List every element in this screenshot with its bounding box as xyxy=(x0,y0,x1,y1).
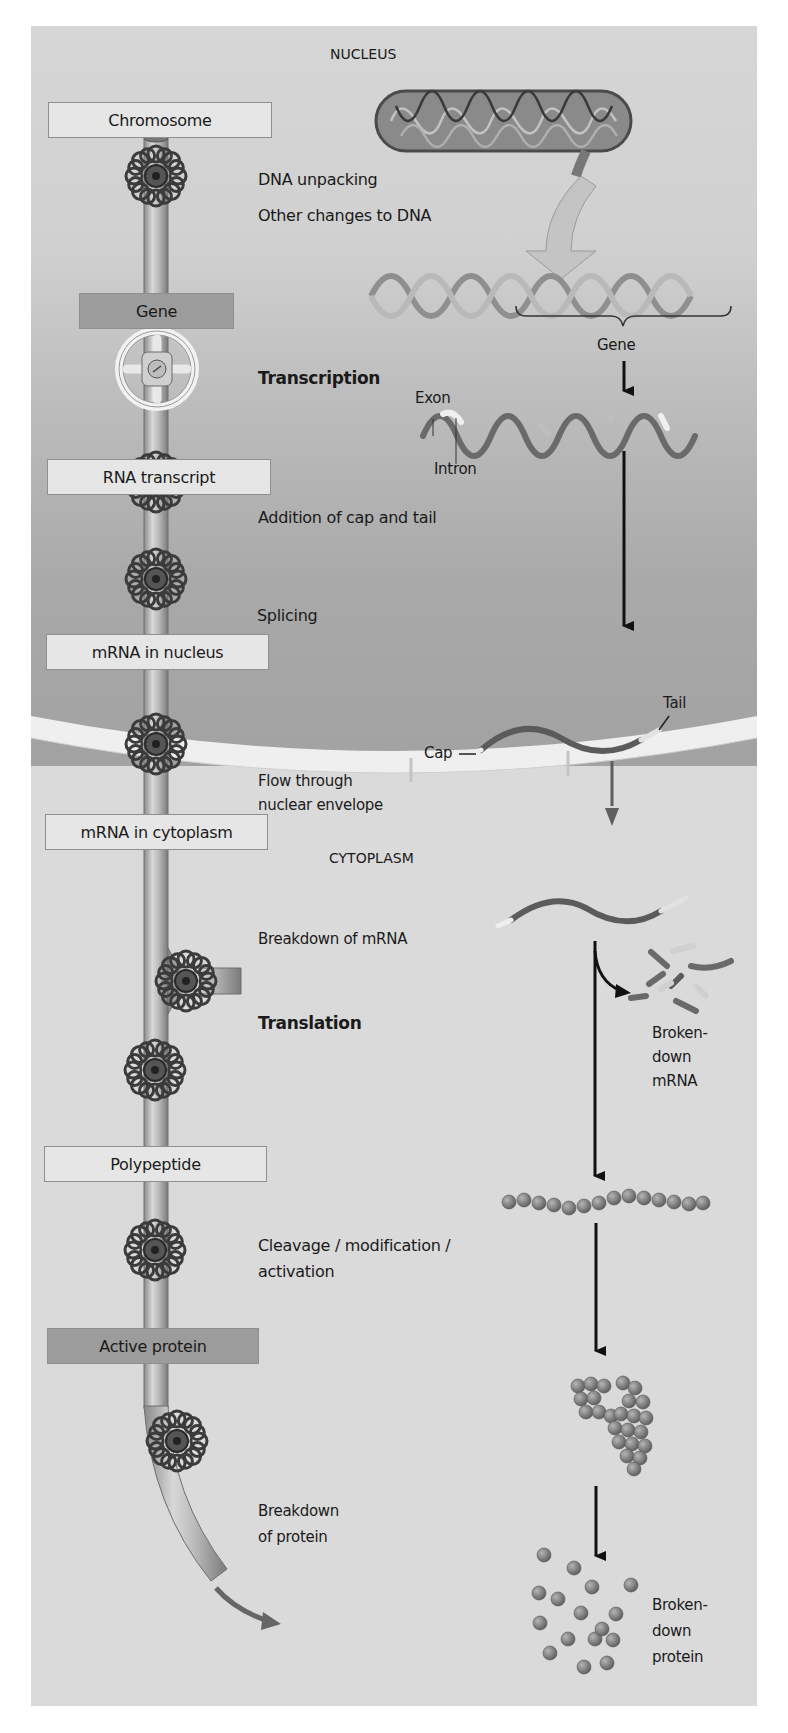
intron-label: Intron xyxy=(434,458,477,480)
control-valve-icon xyxy=(126,146,186,206)
control-flow-line1: Flow through xyxy=(258,770,352,792)
control-dna-unpacking: DNA unpacking xyxy=(258,168,377,192)
control-valve-icon xyxy=(126,549,186,609)
control-valve-icon xyxy=(126,714,186,774)
unpacking-arrow-icon xyxy=(526,176,596,279)
dna-helix-icon xyxy=(371,276,691,316)
exon-label: Exon xyxy=(415,387,450,409)
transcription-valve-icon xyxy=(119,331,195,407)
nucleus-region-label: NUCLEUS xyxy=(330,42,396,66)
control-valve-icon xyxy=(125,1040,185,1100)
polypeptide-icon xyxy=(502,1189,710,1215)
broken-mrna-label-2: down xyxy=(652,1046,691,1068)
stage-mrna-cytoplasm: mRNA in cytoplasm xyxy=(45,814,268,850)
stage-mrna-nucleus: mRNA in nucleus xyxy=(46,634,269,670)
gene-expression-diagram: NUCLEUS CYTOPLASM Chromosome Gene RNA tr… xyxy=(31,26,757,1706)
stage-polypeptide: Polypeptide xyxy=(44,1146,267,1182)
control-transcription: Transcription xyxy=(258,366,380,390)
mrna-cytoplasm-icon xyxy=(498,898,686,926)
stage-chromosome: Chromosome xyxy=(48,102,272,138)
stage-rna-transcript: RNA transcript xyxy=(47,459,271,495)
control-valve-icon xyxy=(125,1220,185,1280)
control-translation: Translation xyxy=(258,1011,362,1035)
stage-gene: Gene xyxy=(79,293,234,329)
control-cleavage-line1: Cleavage / modification / xyxy=(258,1234,450,1258)
control-splicing: Splicing xyxy=(257,604,317,628)
rna-transcript-icon xyxy=(423,409,695,456)
cap-label: Cap xyxy=(424,742,452,764)
control-breakdown-protein-line2: of protein xyxy=(258,1526,328,1548)
control-cap-tail: Addition of cap and tail xyxy=(258,506,436,530)
tail-label: Tail xyxy=(663,692,686,714)
control-flow-line2: nuclear envelope xyxy=(258,794,383,816)
broken-protein-label-3: protein xyxy=(652,1646,703,1668)
cytoplasm-region-label: CYTOPLASM xyxy=(329,846,414,870)
control-breakdown-mrna: Breakdown of mRNA xyxy=(258,928,407,950)
gene-label: Gene xyxy=(597,334,635,356)
stage-active-protein: Active protein xyxy=(47,1328,259,1364)
control-other-changes: Other changes to DNA xyxy=(258,204,431,228)
broken-protein-label-1: Broken- xyxy=(652,1594,708,1616)
control-cleavage-line2: activation xyxy=(258,1260,334,1284)
control-valve-icon xyxy=(156,951,216,1011)
broken-mrna-label-1: Broken- xyxy=(652,1022,708,1044)
broken-mrna-icon xyxy=(631,946,731,1011)
control-breakdown-protein-line1: Breakdown xyxy=(258,1500,339,1522)
active-protein-icon xyxy=(571,1376,653,1476)
control-valve-icon xyxy=(147,1411,207,1471)
broken-protein-label-2: down xyxy=(652,1620,691,1642)
broken-protein-icon xyxy=(532,1548,638,1674)
chromatin-icon xyxy=(376,91,631,176)
broken-mrna-label-3: mRNA xyxy=(652,1070,697,1092)
